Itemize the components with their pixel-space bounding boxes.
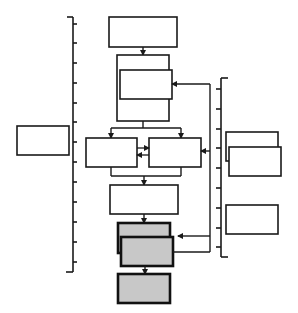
split-left-box [86,138,137,167]
top-box [109,17,177,47]
gray-stack-group [118,223,173,266]
bidirectional-arrows [137,148,149,155]
gray-stack-front-box [121,237,173,266]
stack-front-box [120,70,172,99]
right-box-lower [226,205,278,234]
stack-group [117,55,172,121]
split-right-box [149,138,201,167]
right-box-front [229,147,281,176]
split-connector [111,121,181,138]
merge-connector [111,167,181,185]
gray-bottom-box [118,274,170,303]
flow-diagram [0,0,298,313]
left-box [17,126,69,155]
merge-box [110,185,178,214]
feedback-connector [172,84,210,252]
